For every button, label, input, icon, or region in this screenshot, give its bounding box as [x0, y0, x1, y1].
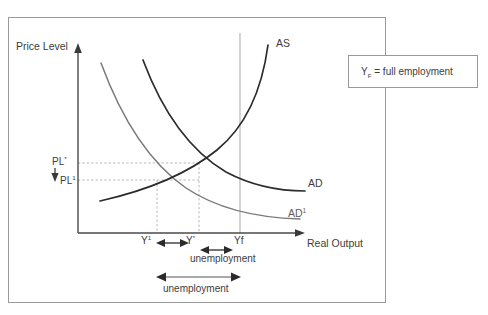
price-level-star-text: PL [52, 156, 64, 167]
gap-arrow-y1-ystar-head-left [156, 239, 165, 247]
output-ystar-label: Y* [186, 236, 195, 246]
output-yf-label: Yf [234, 236, 243, 246]
pl-decrease-arrowhead [51, 173, 58, 182]
legend-symbol: Y [361, 66, 368, 77]
output-y1-text: Y [141, 235, 148, 246]
legend-text: YF = full employment [361, 67, 453, 77]
unemployment-arrow-lower-head-left [156, 273, 166, 282]
x-axis-label: Real Output [307, 238, 363, 249]
ad1-curve [101, 63, 300, 219]
y-axis-label: Price Level [16, 41, 68, 52]
price-level-one-text: PL [60, 175, 72, 186]
unemployment-arrow-lower-head-right [231, 273, 241, 282]
y-axis-arrowhead [74, 43, 82, 53]
as-curve [100, 45, 268, 201]
ad1-curve-label-superscript: 1 [303, 207, 307, 214]
ad-curve [143, 60, 305, 191]
output-ystar-superscript: * [193, 234, 195, 241]
ad-curve-label: AD [308, 178, 323, 189]
output-y1-label: Y1 [141, 236, 151, 246]
as-curve-label: AS [276, 38, 290, 49]
unemployment-annotation-lower: unemployment [163, 284, 229, 294]
price-level-star-label: PL* [52, 157, 67, 167]
legend-box: YF = full employment [348, 55, 478, 88]
unemployment-annotation-upper: unemployment [190, 254, 256, 264]
ad1-curve-label: AD1 [288, 208, 306, 219]
output-y1-superscript: 1 [148, 234, 151, 241]
legend-description: = full employment [371, 66, 452, 77]
ad1-curve-label-text: AD [288, 207, 303, 219]
price-level-one-label: PL1 [60, 176, 76, 186]
figure-canvas: Price Level Real Output AS AD AD1 PL* PL… [0, 0, 488, 315]
x-axis-arrowhead [295, 229, 305, 237]
price-level-one-superscript: 1 [72, 174, 75, 181]
price-level-star-superscript: * [64, 155, 66, 162]
economics-diagram-svg [0, 0, 488, 315]
output-ystar-text: Y [186, 235, 193, 246]
